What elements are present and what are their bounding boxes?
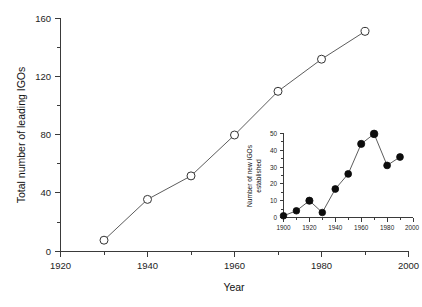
inset-data-point	[397, 154, 404, 161]
figure-container: 0 40 80 120 160 1920 1940 1960	[0, 0, 422, 307]
main-y-ticklabel-160: 160	[35, 13, 51, 24]
main-x-ticklabel-1920: 1920	[50, 260, 71, 271]
inset-data-point	[306, 197, 313, 204]
main-x-ticklabel-1960: 1960	[224, 260, 245, 271]
main-x-ticklabel-2000: 2000	[398, 260, 419, 271]
inset-y-ticklabel-10: 10	[270, 197, 278, 204]
main-data-point	[144, 195, 152, 203]
inset-y-ticklabel-50: 50	[270, 130, 278, 137]
inset-data-point	[293, 208, 300, 215]
main-data-point	[187, 172, 195, 180]
main-data-point	[231, 131, 239, 139]
inset-data-point	[319, 209, 326, 216]
inset-x-ticklabel-1920: 1920	[302, 224, 317, 231]
main-x-ticklabel-1940: 1940	[137, 260, 158, 271]
main-y-ticklabel-40: 40	[40, 187, 51, 198]
main-data-point	[361, 27, 369, 35]
main-data-point	[100, 236, 108, 244]
inset-data-point	[358, 140, 365, 147]
chart-canvas: 0 40 80 120 160 1920 1940 1960	[0, 0, 422, 307]
inset-y-ticklabel-20: 20	[270, 180, 278, 187]
main-y-ticklabel-0: 0	[46, 246, 51, 257]
main-y-ticklabel-80: 80	[40, 129, 51, 140]
inset-y-axis-title-line2: established	[255, 159, 262, 193]
main-x-axis-title: Year	[223, 281, 245, 293]
inset-data-point	[332, 186, 339, 193]
inset-x-ticklabel-1900: 1900	[276, 224, 291, 231]
inset-data-point	[370, 130, 378, 138]
main-x-ticklabel-1980: 1980	[311, 260, 332, 271]
inset-x-ticklabel-1960: 1960	[354, 224, 369, 231]
inset-x-ticklabel-1980: 1980	[380, 224, 395, 231]
main-data-point	[274, 87, 282, 95]
main-y-axis-title: Total number of leading IGOs	[15, 67, 27, 204]
inset-data-point	[345, 171, 352, 178]
main-data-point	[318, 55, 326, 63]
inset-x-ticklabel-1940: 1940	[328, 224, 343, 231]
inset-y-ticklabel-0: 0	[273, 214, 277, 221]
inset-y-ticklabel-40: 40	[270, 147, 278, 154]
inset-x-ticklabel-2000: 2000	[405, 224, 420, 231]
main-y-ticklabel-120: 120	[35, 71, 51, 82]
inset-data-point	[280, 213, 287, 220]
inset-data-point	[384, 162, 391, 169]
inset-y-ticklabel-30: 30	[270, 164, 278, 171]
inset-y-axis-title-line1: Number of new IGOs	[246, 144, 253, 207]
